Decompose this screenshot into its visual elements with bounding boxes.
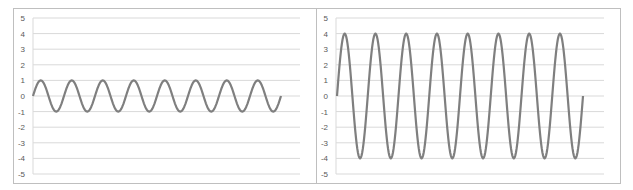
y-tick-label: -4 [18, 154, 26, 163]
y-tick-label: -5 [18, 170, 26, 179]
y-tick-label: -1 [321, 108, 329, 117]
y-tick-label: -2 [321, 123, 329, 132]
y-tick-label: 0 [324, 92, 329, 101]
y-tick-label: 5 [324, 14, 329, 23]
y-tick-label: -5 [321, 170, 329, 179]
y-tick-label: 5 [21, 14, 26, 23]
y-tick-label: -1 [18, 108, 26, 117]
chart-left-plot: 543210-1-2-3-4-5 [18, 14, 300, 179]
y-tick-label: -2 [18, 123, 26, 132]
y-tick-label: 3 [21, 45, 26, 54]
y-tick-label: 4 [21, 30, 26, 39]
y-tick-label: 2 [21, 61, 26, 70]
y-tick-label: 1 [324, 76, 329, 85]
charts-svg: 543210-1-2-3-4-5 543210-1-2-3-4-5 [0, 0, 633, 190]
chart-right-plot: 543210-1-2-3-4-5 [321, 14, 604, 179]
y-tick-label: 1 [21, 76, 26, 85]
y-tick-label: -4 [321, 154, 329, 163]
y-tick-label: 3 [324, 45, 329, 54]
y-tick-label: 4 [324, 30, 329, 39]
y-tick-label: 2 [324, 61, 329, 70]
y-tick-label: -3 [18, 139, 26, 148]
y-tick-label: 0 [21, 92, 26, 101]
y-tick-label: -3 [321, 139, 329, 148]
